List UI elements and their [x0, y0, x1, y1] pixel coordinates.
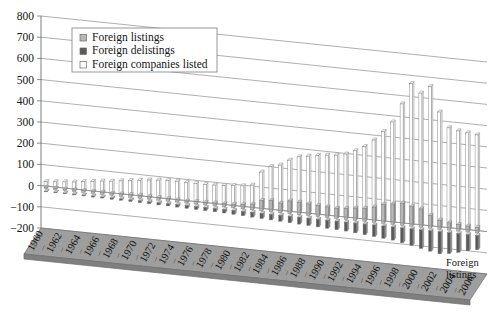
bar-1999 — [410, 229, 413, 246]
bar-1989 — [316, 206, 319, 217]
bar-1966 — [101, 197, 104, 198]
bars-layer — [44, 82, 480, 254]
bar-1978 — [213, 185, 216, 203]
bar-1965 — [91, 192, 94, 194]
bar-1988 — [307, 218, 310, 225]
bar-1999 — [409, 84, 412, 224]
bar-1975 — [185, 206, 188, 209]
bar-1961 — [54, 192, 57, 193]
bar-1986 — [288, 201, 291, 214]
y-tick-label-8: 0 — [28, 180, 34, 192]
bar-side — [441, 110, 443, 227]
bar-1963 — [73, 194, 76, 195]
legend-label-1: Foreign delistings — [92, 44, 175, 57]
bar-1998 — [401, 228, 404, 243]
bar-1973 — [166, 199, 169, 201]
bar-1988 — [307, 204, 310, 216]
bar-1994 — [363, 208, 366, 221]
bar-1972 — [157, 203, 160, 205]
bar-side — [404, 226, 406, 243]
bar-side — [432, 229, 434, 251]
bar-1975 — [185, 201, 188, 203]
bar-side — [394, 202, 396, 224]
bar-side — [413, 227, 415, 246]
legend-label-2: Foreign companies listed — [92, 58, 208, 71]
bar-2002 — [438, 232, 441, 254]
bar-side — [385, 203, 387, 224]
bar-1976 — [194, 184, 197, 202]
bar-side — [469, 131, 471, 230]
bar-side — [169, 179, 171, 199]
bar-1984 — [269, 214, 272, 220]
legend-swatch-1 — [80, 48, 87, 55]
bar-1960 — [44, 191, 47, 192]
bar-1968 — [119, 194, 122, 196]
bar-side — [394, 225, 396, 240]
y-tick-label-2: 600 — [17, 52, 35, 64]
bar-2005 — [466, 235, 469, 251]
bar-1967 — [110, 193, 113, 195]
bar-1987 — [297, 202, 300, 214]
bar-1984 — [269, 201, 272, 212]
bar-1968 — [119, 199, 122, 200]
bar-2006 — [475, 135, 478, 230]
y-tick-label-5: 300 — [17, 116, 35, 128]
y-tick-label-1: 700 — [17, 31, 35, 43]
bar-side — [225, 184, 227, 205]
bar-1960 — [44, 188, 47, 189]
bar-1982 — [251, 212, 254, 217]
bar-side — [460, 232, 462, 253]
series-axis-label-line1: Foreign — [446, 257, 479, 268]
bar-2005 — [466, 226, 469, 232]
bar-1983 — [260, 201, 263, 211]
bar-2004 — [457, 234, 460, 253]
bar-1976 — [194, 207, 197, 210]
bar-1983 — [260, 213, 263, 218]
legend-swatch-2 — [80, 62, 87, 69]
bar-side — [450, 231, 452, 254]
bar-1966 — [100, 192, 103, 194]
bar-1960 — [44, 182, 47, 186]
bar-side — [160, 178, 162, 197]
bar-side — [206, 182, 208, 202]
bar-1993 — [354, 223, 357, 233]
bar-2004 — [456, 131, 459, 229]
bar-1993 — [353, 208, 356, 220]
bar-1974 — [176, 205, 179, 207]
y-tick-label-9: −100 — [10, 201, 34, 213]
bar-side — [478, 133, 480, 231]
bar-1985 — [279, 215, 282, 221]
series-axis-label: Foreignlistings — [446, 257, 479, 280]
series-axis-label-line2: listings — [446, 269, 476, 280]
bar-2001 — [428, 215, 431, 228]
bar-1964 — [82, 195, 85, 196]
bar-1985 — [279, 203, 282, 213]
bar-2000 — [419, 230, 422, 249]
bar-1980 — [232, 204, 235, 208]
bar-2001 — [428, 87, 431, 226]
bar-1970 — [138, 201, 141, 203]
bar-1992 — [344, 222, 347, 231]
legend-swatch-0 — [80, 35, 87, 42]
bar-1971 — [147, 180, 150, 197]
bar-1972 — [157, 180, 160, 197]
bar-1990 — [326, 220, 329, 228]
bar-2006 — [475, 236, 478, 250]
bar-side — [413, 205, 415, 227]
bar-2002 — [438, 220, 441, 229]
bar-1977 — [203, 185, 206, 203]
bar-chart-3d: 8007006005004003002001000−100−2001960196… — [0, 0, 494, 312]
bar-side — [469, 233, 471, 251]
bar-1989 — [316, 219, 319, 227]
bar-1962 — [63, 182, 66, 188]
bar-side — [422, 228, 424, 249]
bar-1997 — [391, 227, 394, 240]
bar-side — [178, 179, 180, 199]
bar-1962 — [63, 193, 66, 194]
bar-side — [478, 234, 480, 250]
bar-1996 — [382, 226, 385, 238]
bar-1975 — [185, 183, 188, 201]
bar-1994 — [363, 224, 366, 235]
bar-side — [450, 126, 452, 228]
y-tick-label-4: 400 — [17, 95, 35, 107]
